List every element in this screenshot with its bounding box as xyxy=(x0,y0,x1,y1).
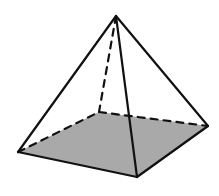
pyramid-svg xyxy=(0,0,219,196)
hidden-edge-apex-base_back_hidden xyxy=(99,16,116,112)
pyramid-diagram xyxy=(0,0,219,196)
edge-apex-base_right xyxy=(116,16,208,126)
